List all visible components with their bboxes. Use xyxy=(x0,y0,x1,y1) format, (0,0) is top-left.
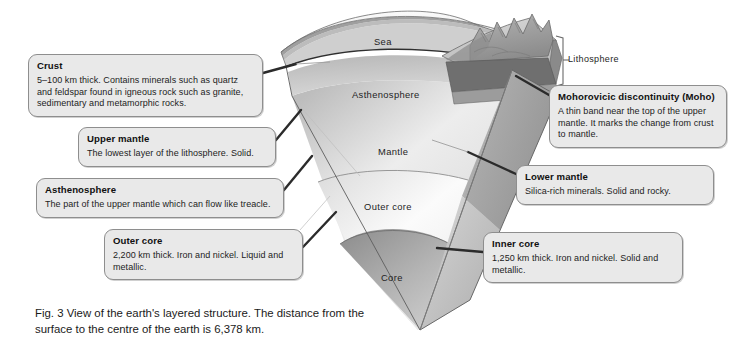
callout-lower-mantle: Lower mantle Silica-rich minerals. Solid… xyxy=(516,165,714,205)
callout-outer-core-body: 2,200 km thick. Iron and nickel. Liquid … xyxy=(113,250,294,273)
callout-lower-mantle-title: Lower mantle xyxy=(525,171,705,183)
callout-outer-core: Outer core 2,200 km thick. Iron and nick… xyxy=(104,229,303,280)
callout-inner-core-body: 1,250 km thick. Iron and nickel. Solid a… xyxy=(492,253,674,276)
callout-asthenosphere: Asthenosphere The part of the upper mant… xyxy=(36,178,284,218)
callout-inner-core-title: Inner core xyxy=(492,238,674,250)
callout-crust-title: Crust xyxy=(37,60,254,72)
callout-crust-body: 5–100 km thick. Contains minerals such a… xyxy=(37,75,254,110)
figure-container: Sea Asthenosphere Mantle Outer core Core… xyxy=(0,0,733,357)
diagram-label-mantle: Mantle xyxy=(378,146,408,157)
callout-moho-body: A thin band near the top of the upper ma… xyxy=(558,106,718,141)
diagram-label-asthenosphere: Asthenosphere xyxy=(352,89,420,100)
callout-upper-mantle: Upper mantle The lowest layer of the lit… xyxy=(78,127,276,167)
leader-outer-core xyxy=(303,212,336,247)
callout-lower-mantle-body: Silica-rich minerals. Solid and rocky. xyxy=(525,186,705,198)
figure-caption: Fig. 3 View of the earth's layered struc… xyxy=(35,305,385,337)
diagram-label-core: Core xyxy=(381,272,403,283)
leader-asthenosphere xyxy=(284,156,312,190)
callout-asthenosphere-body: The part of the upper mantle which can f… xyxy=(45,199,275,211)
diagram-label-lithosphere: Lithosphere xyxy=(568,54,619,64)
leader-upper-mantle xyxy=(276,110,301,140)
callout-crust: Crust 5–100 km thick. Contains minerals … xyxy=(28,54,263,117)
diagram-label-sea: Sea xyxy=(374,36,392,47)
callout-inner-core: Inner core 1,250 km thick. Iron and nick… xyxy=(483,232,683,283)
callout-moho-title: Mohorovicic discontinuity (Moho) xyxy=(558,91,718,103)
callout-outer-core-title: Outer core xyxy=(113,235,294,247)
callout-upper-mantle-title: Upper mantle xyxy=(87,133,267,145)
diagram-label-outer-core: Outer core xyxy=(364,201,412,212)
callout-upper-mantle-body: The lowest layer of the lithosphere. Sol… xyxy=(87,148,267,160)
callout-moho: Mohorovicic discontinuity (Moho) A thin … xyxy=(549,85,727,148)
callout-asthenosphere-title: Asthenosphere xyxy=(45,184,275,196)
